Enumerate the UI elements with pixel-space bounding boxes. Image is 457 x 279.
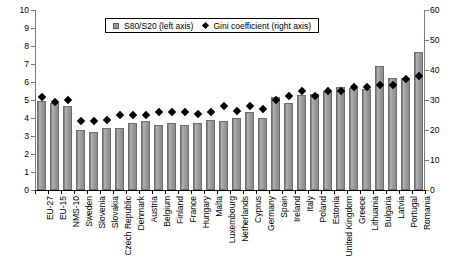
x-label-denmark: Denmark bbox=[136, 196, 146, 230]
x-label-austria: Austria bbox=[149, 196, 159, 222]
gini-point-malta bbox=[206, 108, 214, 116]
chart-container: 012345678910 0102030405060 EU-27EU-15NMS… bbox=[0, 0, 457, 279]
gini-point-belgium bbox=[154, 108, 162, 116]
legend-label-s80s20: S80/S20 (left axis) bbox=[124, 21, 193, 31]
bar-finland bbox=[167, 123, 176, 190]
x-label-finland: Finland bbox=[175, 196, 185, 224]
x-label-sweden: Sweden bbox=[84, 196, 94, 227]
x-tick bbox=[191, 190, 192, 194]
y-tick-label-right: 40 bbox=[430, 66, 439, 74]
x-label-ireland: Ireland bbox=[292, 196, 302, 222]
y-tick-left bbox=[31, 118, 35, 119]
gini-point-denmark bbox=[128, 111, 136, 119]
x-tick bbox=[308, 190, 309, 194]
bar-netherlands bbox=[232, 118, 241, 190]
x-label-latvia: Latvia bbox=[396, 196, 406, 219]
y-tick-label-right: 20 bbox=[430, 126, 439, 134]
bar-eu-15 bbox=[50, 103, 59, 190]
y-tick-label-right: 0 bbox=[430, 186, 435, 194]
bar-germany bbox=[258, 118, 267, 190]
y-tick-left bbox=[31, 82, 35, 83]
x-tick bbox=[425, 190, 426, 194]
y-tick-right bbox=[425, 10, 429, 11]
gini-point-slovenia bbox=[89, 117, 97, 125]
y-tick-label-left: 4 bbox=[24, 114, 29, 122]
y-tick-label-left: 9 bbox=[24, 24, 29, 32]
y-tick-right bbox=[425, 100, 429, 101]
bar-spain bbox=[271, 97, 280, 190]
x-tick bbox=[113, 190, 114, 194]
square-marker-icon bbox=[113, 23, 119, 29]
bar-malta bbox=[206, 120, 215, 190]
x-tick bbox=[74, 190, 75, 194]
y-tick-right bbox=[425, 70, 429, 71]
x-tick bbox=[61, 190, 62, 194]
bar-slovakia bbox=[102, 128, 111, 190]
x-label-cyprus: Cyprus bbox=[253, 196, 263, 223]
x-tick bbox=[87, 190, 88, 194]
y-tick-label-left: 2 bbox=[24, 150, 29, 158]
x-tick bbox=[204, 190, 205, 194]
bar-czech-republic bbox=[115, 128, 124, 190]
gini-point-cyprus bbox=[245, 102, 253, 110]
x-label-united-kingdom: United Kingdom bbox=[344, 196, 354, 256]
bar-slovenia bbox=[89, 132, 98, 190]
y-axis-left bbox=[35, 10, 36, 190]
x-tick bbox=[295, 190, 296, 194]
gini-point-netherlands bbox=[232, 106, 240, 114]
bar-austria bbox=[141, 121, 150, 190]
bar-denmark bbox=[128, 123, 137, 191]
gini-point-france bbox=[180, 108, 188, 116]
bar-eu-27 bbox=[37, 101, 46, 190]
gini-point-sweden bbox=[76, 117, 84, 125]
y-tick-label-left: 7 bbox=[24, 60, 29, 68]
y-tick-left bbox=[31, 10, 35, 11]
x-tick bbox=[230, 190, 231, 194]
y-tick-right bbox=[425, 160, 429, 161]
legend-item-bars: S80/S20 (left axis) bbox=[113, 21, 193, 31]
x-label-eu-27: EU-27 bbox=[45, 196, 55, 220]
gini-point-finland bbox=[167, 108, 175, 116]
x-tick bbox=[165, 190, 166, 194]
y-tick-label-left: 0 bbox=[24, 186, 29, 194]
y-tick-left bbox=[31, 28, 35, 29]
legend-label-gini: Gini coefficient (right axis) bbox=[213, 21, 311, 31]
bar-sweden bbox=[76, 130, 85, 190]
plot-area bbox=[35, 10, 425, 190]
x-label-france: France bbox=[188, 196, 198, 222]
y-tick-label-left: 8 bbox=[24, 42, 29, 50]
bar-greece bbox=[349, 88, 358, 190]
x-tick bbox=[373, 190, 374, 194]
gini-point-germany bbox=[258, 105, 266, 113]
y-tick-left bbox=[31, 100, 35, 101]
x-label-luxembourg: Luxembourg bbox=[227, 196, 237, 243]
x-tick bbox=[139, 190, 140, 194]
x-label-estonia: Estonia bbox=[331, 196, 341, 224]
bar-france bbox=[180, 125, 189, 190]
y-tick-label-left: 5 bbox=[24, 96, 29, 104]
y-tick-label-right: 60 bbox=[430, 6, 439, 14]
x-label-lithuania: Lithuania bbox=[370, 196, 380, 231]
bar-portugal bbox=[401, 78, 410, 191]
y-tick-label-right: 10 bbox=[430, 156, 439, 164]
x-tick bbox=[152, 190, 153, 194]
x-label-germany: Germany bbox=[266, 196, 276, 231]
x-tick bbox=[35, 190, 36, 194]
x-label-romania: Romania bbox=[422, 196, 432, 230]
chart-legend: S80/S20 (left axis) Gini coefficient (ri… bbox=[105, 18, 319, 33]
y-tick-left bbox=[31, 154, 35, 155]
x-tick bbox=[386, 190, 387, 194]
y-tick-left bbox=[31, 172, 35, 173]
bar-poland bbox=[310, 94, 319, 190]
x-tick bbox=[269, 190, 270, 194]
x-label-portugal: Portugal bbox=[409, 196, 419, 228]
x-label-slovenia: Slovenia bbox=[97, 196, 107, 229]
y-tick-label-right: 50 bbox=[430, 36, 439, 44]
x-tick bbox=[282, 190, 283, 194]
legend-item-gini: Gini coefficient (right axis) bbox=[203, 21, 311, 31]
bar-united-kingdom bbox=[336, 87, 345, 191]
x-tick bbox=[334, 190, 335, 194]
x-tick bbox=[243, 190, 244, 194]
y-tick-label-left: 10 bbox=[20, 6, 29, 14]
y-tick-right bbox=[425, 40, 429, 41]
